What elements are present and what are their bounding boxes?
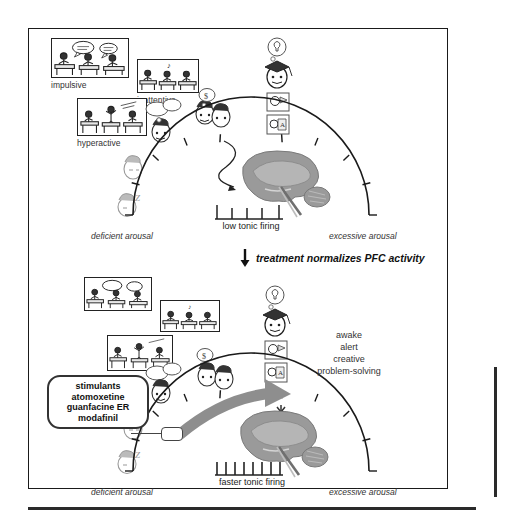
graduate-cap-head-icon-treated [263, 309, 290, 336]
faster-tonic-firing-label: faster tonic firing [207, 477, 297, 487]
sleeping-head-z-icon-treated: Z [118, 450, 141, 474]
top-panel: impulsive ♪ inattentive [29, 29, 447, 257]
distracted-head-2-icon-treated [215, 366, 233, 389]
writing-head-icon-treated: A [265, 363, 287, 382]
med-line-1: stimulants [56, 381, 140, 392]
inverted-u-arc [133, 97, 369, 215]
svg-text:Z: Z [135, 450, 141, 460]
outcome-alert: alert [301, 342, 397, 354]
distracted-head-icon-treated [198, 363, 216, 386]
svg-text:$: $ [202, 352, 206, 361]
medication-callout[interactable]: stimulants atomoxetine guanfacine ER mod… [47, 375, 149, 429]
distracted-head-2-icon [212, 104, 230, 127]
arrow-to-brain [219, 141, 236, 187]
page-rule-right [494, 367, 497, 497]
outcome-problem-solving: problem-solving [301, 366, 397, 378]
medication-connector [131, 433, 163, 434]
bottom-panel: ♪ [29, 257, 447, 490]
writing-head-icon: A [267, 115, 289, 134]
outcome-list: awake alert creative problem-solving [301, 330, 397, 378]
svg-text:$: $ [204, 92, 208, 101]
sagittal-brain-electrode-icon-treated [241, 411, 328, 477]
graduate-cap-head-icon [265, 61, 292, 88]
lightbulb-thought-icon-treated [266, 286, 284, 309]
excessive-arousal-label-bottom: excessive arousal [329, 487, 397, 497]
med-line-3: guanfacine ER [56, 402, 140, 413]
sagittal-brain-electrode-icon [243, 151, 330, 217]
svg-text:A: A [280, 121, 285, 129]
lightbulb-thought-icon [268, 38, 286, 61]
deficient-arousal-label-top: deficient arousal [91, 231, 153, 241]
wandering-head-icon-treated [152, 380, 170, 403]
page-rule-bottom [28, 507, 476, 510]
med-line-2: atomoxetine [56, 392, 140, 403]
outcome-creative: creative [301, 354, 397, 366]
medication-connector-node [161, 427, 183, 441]
med-line-4: modafinil [56, 413, 140, 424]
cloud-thought-icon-treated [146, 363, 181, 380]
svg-text:Z: Z [135, 193, 141, 203]
outcome-awake: awake [301, 330, 397, 342]
low-tonic-firing-label: low tonic firing [211, 221, 291, 231]
sleeping-head-z-icon: Z [118, 193, 141, 217]
svg-text:A: A [278, 369, 283, 377]
figure-frame: impulsive ♪ inattentive [28, 28, 448, 489]
deficient-arousal-label-bottom: deficient arousal [91, 487, 153, 497]
excessive-arousal-label-top: excessive arousal [329, 231, 397, 241]
